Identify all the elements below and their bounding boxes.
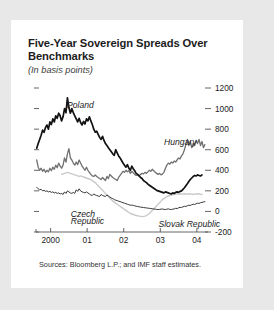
y-tick-label: 800: [215, 124, 229, 134]
x-tick-label: 2000: [41, 235, 60, 245]
x-tick-03: 03: [156, 228, 166, 245]
sovereign-spreads-line-chart: -200020040060080010001200200001020304Pol…: [11, 20, 243, 288]
chart-plot-area: -200020040060080010001200200001020304Pol…: [11, 20, 243, 288]
y-tick-label: 1200: [215, 83, 234, 93]
y-tick-label: 400: [215, 165, 229, 175]
y-tick-label: 200: [215, 186, 229, 196]
series-label-poland: Poland: [67, 100, 94, 110]
x-tick-02: 02: [119, 228, 129, 245]
y-tick-label: 600: [215, 145, 229, 155]
x-tick-label: 03: [156, 235, 166, 245]
x-tick-01: 01: [83, 228, 93, 245]
x-tick-label: 02: [119, 235, 129, 245]
y-tick-600: 600: [34, 145, 229, 155]
figure-card: Five-Year Sovereign Spreads Over Benchma…: [11, 20, 243, 288]
x-tick-04: 04: [192, 228, 202, 245]
series-label-hungary: Hungary: [164, 137, 197, 147]
y-tick-label: 0: [215, 206, 220, 216]
source-note: Sources: Bloomberg L.P.; and IMF staff e…: [39, 260, 201, 269]
y-tick-800: 800: [34, 124, 229, 134]
x-tick-2000: 2000: [41, 228, 60, 245]
x-tick-label: 01: [83, 235, 93, 245]
x-tick-label: 04: [192, 235, 202, 245]
series-label-slovak-republic: Slovak Republic: [158, 219, 220, 229]
y-tick-1200: 1200: [34, 83, 234, 93]
series-label-republic: Republic: [71, 216, 105, 226]
y-tick-label: 1000: [215, 104, 234, 114]
